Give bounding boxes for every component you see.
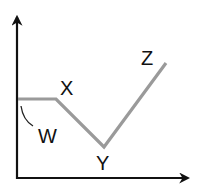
label-y: Y — [96, 152, 109, 174]
line-diagram: X W Y Z — [0, 0, 208, 190]
w-pointer-line — [21, 106, 33, 126]
label-z: Z — [141, 47, 153, 69]
label-x: X — [60, 77, 73, 99]
label-w: W — [38, 125, 57, 147]
